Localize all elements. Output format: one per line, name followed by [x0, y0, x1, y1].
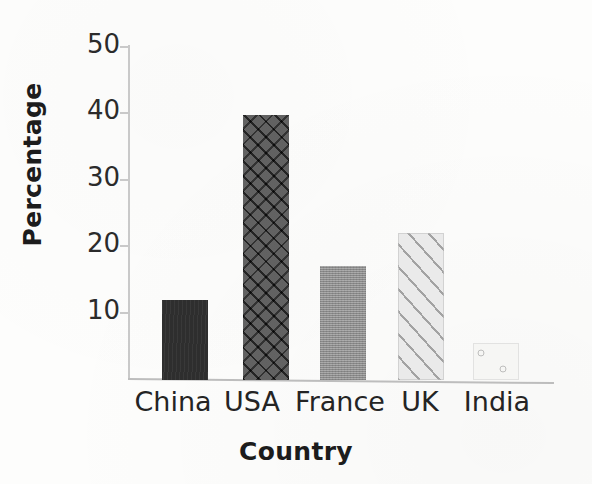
y-tick-label-30: 30: [66, 164, 120, 190]
bar-uk: [398, 233, 444, 380]
bar-india: [473, 343, 519, 380]
y-tick-label-20: 20: [66, 230, 120, 256]
y-axis-title: Percentage: [18, 55, 47, 275]
y-tick-label-10: 10: [66, 297, 120, 323]
x-label-china: China: [130, 386, 216, 417]
x-label-usa: USA: [215, 386, 289, 417]
x-label-india: India: [455, 386, 539, 417]
x-label-france: France: [289, 386, 391, 417]
plot-area: [128, 45, 554, 380]
bar-france: [320, 266, 366, 380]
y-tick-label-40: 40: [66, 97, 120, 123]
bar-chart: Percentage 50 40 30 20 10 China USA Fran…: [0, 0, 592, 484]
y-tick-label-50: 50: [66, 31, 120, 57]
bar-china: [162, 300, 208, 380]
x-label-uk: UK: [389, 386, 451, 417]
x-axis-title: Country: [0, 437, 592, 466]
bar-usa: [243, 115, 289, 380]
